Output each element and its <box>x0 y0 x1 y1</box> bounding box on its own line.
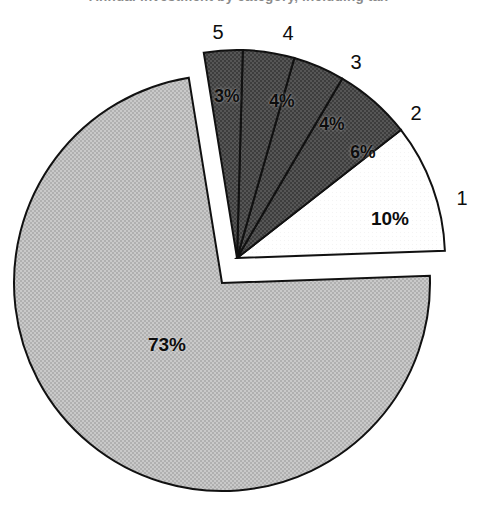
slice-percent-label-4: 4% <box>269 91 294 112</box>
slice-percent-label-73: 73% <box>148 334 186 356</box>
slice-category-label-4: 4 <box>282 22 293 45</box>
slice-category-label-1: 1 <box>456 187 467 210</box>
slice-category-label-5: 5 <box>212 21 223 44</box>
pie-slices-group <box>14 50 445 491</box>
slice-percent-label-3: 4% <box>319 114 344 135</box>
slice-percent-label-2: 6% <box>350 142 375 163</box>
pie-chart-graphic <box>0 0 477 517</box>
slice-category-label-3: 3 <box>350 51 361 74</box>
pie-chart-page: Annual investment by category, including… <box>0 0 477 517</box>
slice-category-label-2: 2 <box>410 102 421 125</box>
slice-percent-label-1: 10% <box>371 208 409 230</box>
slice-percent-label-5: 3% <box>214 86 239 107</box>
